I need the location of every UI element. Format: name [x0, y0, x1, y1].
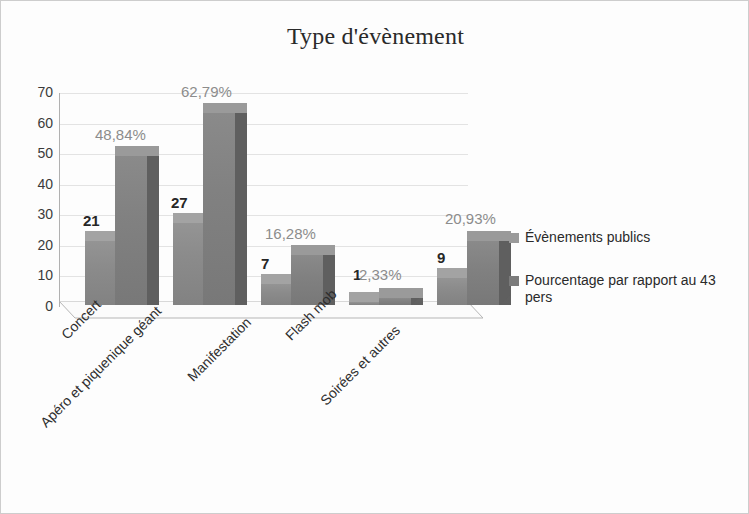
legend-item-pourcentage[interactable]: Pourcentage par rapport au 43 pers [509, 272, 741, 306]
legend-label: Pourcentage par rapport au 43 pers [525, 272, 741, 306]
y-tick: 30 [19, 206, 53, 222]
data-label-value: 21 [83, 212, 100, 229]
bar-front-face [85, 241, 117, 305]
bar-series1[interactable] [173, 223, 205, 305]
chart-page: Type d'évènement 70 60 50 40 30 20 10 0 [0, 0, 749, 514]
bar-front-face [203, 113, 235, 305]
data-label-value: 27 [171, 194, 188, 211]
data-label-percent: 20,93% [445, 210, 496, 227]
data-label-percent: 62,79% [181, 83, 232, 100]
bar-side-face [235, 103, 247, 305]
legend-swatch-icon [509, 233, 519, 243]
bar-series2[interactable] [115, 156, 147, 305]
bar-top-face [203, 103, 247, 113]
y-axis-line [59, 93, 60, 307]
bar-group: 21 48,84% [85, 91, 161, 305]
bar-series2[interactable] [379, 298, 411, 305]
bar-group: 7 16,28% [261, 91, 337, 305]
y-tick: 20 [19, 237, 53, 253]
y-tick: 60 [19, 115, 53, 131]
y-tick: 0 [19, 298, 53, 314]
bar-group: 9 20,93% [437, 91, 513, 305]
data-label-percent: 16,28% [265, 225, 316, 242]
bar-series1[interactable] [85, 241, 117, 305]
plot-area: 70 60 50 40 30 20 10 0 [59, 93, 479, 311]
y-tick: 70 [19, 84, 53, 100]
bar-front-face [379, 298, 411, 305]
legend-swatch-icon [509, 276, 519, 286]
bar-series2[interactable] [467, 241, 499, 305]
bar-side-face [147, 146, 159, 305]
bar-series2[interactable] [203, 113, 235, 305]
bar-top-face [115, 146, 159, 156]
data-label-value: 7 [261, 255, 269, 272]
data-label-value: 9 [437, 249, 445, 266]
bar-front-face [115, 156, 147, 305]
bar-front-face [349, 302, 381, 305]
x-axis-label-manifestation: Manifestation [184, 314, 254, 384]
bar-top-face [291, 245, 335, 255]
y-axis-tick-labels: 70 60 50 40 30 20 10 0 [17, 93, 53, 307]
y-tick: 40 [19, 176, 53, 192]
x-axis-label-soirees-et-autres: Soirées et autres [317, 322, 403, 408]
bar-front-face [437, 278, 469, 305]
bar-top-face [467, 231, 511, 241]
chart-legend: Évènements publics Pourcentage par rappo… [509, 229, 741, 332]
bar-front-face [173, 223, 205, 305]
page-title: Type d'évènement [1, 23, 749, 50]
data-label-percent: 2,33% [359, 266, 402, 283]
y-tick: 50 [19, 145, 53, 161]
bar-series1[interactable] [349, 302, 381, 305]
y-tick: 10 [19, 267, 53, 283]
legend-item-evenements-publics[interactable]: Évènements publics [509, 229, 741, 246]
bar-series1[interactable] [437, 278, 469, 305]
bar-top-face [379, 288, 423, 298]
bar-series1[interactable] [261, 284, 293, 305]
legend-label: Évènements publics [525, 229, 741, 246]
bar-front-face [261, 284, 293, 305]
bar-group: 27 62,79% [173, 91, 249, 305]
bar-group: 1 2,33% [349, 91, 425, 305]
bar-front-face [467, 241, 499, 305]
data-label-percent: 48,84% [95, 126, 146, 143]
